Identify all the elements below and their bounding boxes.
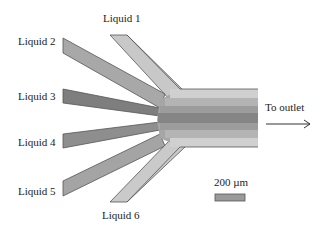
label-liquid-2: Liquid 2 xyxy=(18,35,56,47)
scale-bar-label: 200 µm xyxy=(214,176,249,188)
label-liquid-1: Liquid 1 xyxy=(103,12,141,24)
label-liquid-6: Liquid 6 xyxy=(102,209,140,221)
arrow-right-icon xyxy=(266,120,310,128)
label-liquid-5: Liquid 5 xyxy=(18,185,56,197)
outlet-label: To outlet xyxy=(265,101,304,113)
label-liquid-3: Liquid 3 xyxy=(18,90,56,102)
scale-bar xyxy=(215,194,245,201)
label-liquid-4: Liquid 4 xyxy=(18,136,56,148)
microfluidic-diagram: Liquid 1 Liquid 2 Liquid 3 Liquid 4 Liqu… xyxy=(0,0,327,232)
